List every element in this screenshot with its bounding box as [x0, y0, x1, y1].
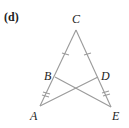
point-label-d: D [101, 70, 110, 82]
tick-de-1 [102, 91, 109, 93]
triangle-diagram [0, 0, 129, 128]
point-label-b: B [44, 70, 51, 82]
segment-ca [40, 30, 76, 106]
point-label-c: C [72, 13, 80, 25]
point-label-a: A [30, 110, 37, 122]
tick-de-2 [103, 94, 110, 96]
point-label-e: E [112, 110, 119, 122]
